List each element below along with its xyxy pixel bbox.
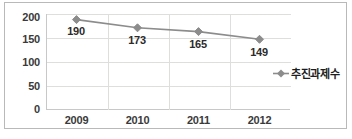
- data-label-2012: 149: [239, 46, 279, 58]
- data-point-marker-2012: [256, 35, 264, 43]
- legend-label-series-1: 추진과제수: [291, 65, 340, 81]
- data-label-2010: 173: [117, 34, 157, 46]
- figure-caption: [6, 131, 186, 137]
- chart-frame: 200 150 100 50 0 190 173 165 149 2009 20…: [4, 2, 347, 129]
- x-axis-tick-2011: 2011: [168, 114, 229, 126]
- y-axis-tick-100: 100: [7, 56, 40, 68]
- x-axis-tick-2012: 2012: [229, 114, 290, 126]
- y-axis-tick-50: 50: [7, 80, 40, 92]
- data-point-marker-2009: [73, 16, 81, 24]
- y-axis-tick-0: 0: [7, 103, 40, 115]
- x-axis-tick-2009: 2009: [46, 114, 107, 126]
- series-line: [77, 20, 260, 40]
- x-axis-tick-2010: 2010: [107, 114, 168, 126]
- data-point-marker-2010: [134, 24, 142, 32]
- y-axis-tick-200: 200: [7, 11, 40, 23]
- data-point-marker-2011: [195, 28, 203, 36]
- data-label-2009: 190: [56, 25, 96, 37]
- line-diamond-marker-icon: [273, 68, 289, 79]
- data-label-2011: 165: [178, 38, 218, 50]
- y-axis-tick-150: 150: [7, 33, 40, 45]
- chart-legend: 추진과제수: [273, 65, 340, 81]
